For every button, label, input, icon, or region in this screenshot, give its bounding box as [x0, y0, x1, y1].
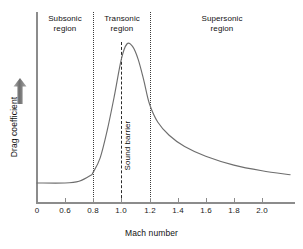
x-tick-1-4 [178, 198, 179, 203]
x-axis-title: Mach number [0, 228, 303, 238]
region-label-transonic-line1: Transonic [104, 14, 140, 23]
x-tick-1-6 [206, 198, 207, 203]
y-axis-title: Drag coefficient [9, 82, 19, 172]
x-tick-label-1-0: 1.0 [115, 206, 126, 215]
plot-area: 0 0.6 0.8 1.0 1.2 1.4 1.6 1.8 2.0 Subson… [0, 0, 303, 249]
region-label-subsonic-line2: region [48, 24, 82, 34]
x-tick-label-1-8: 1.8 [228, 206, 239, 215]
curve-path [37, 43, 290, 183]
region-label-supersonic-line1: Supersonic [201, 14, 242, 23]
x-tick-2-0 [262, 198, 263, 203]
x-tick-1-2 [150, 198, 151, 203]
x-tick-label-2-0: 2.0 [256, 206, 267, 215]
region-label-transonic: Transonic region [104, 14, 140, 34]
x-tick-label-1-2: 1.2 [144, 206, 155, 215]
sound-barrier-label: Sound barrier [123, 111, 132, 181]
x-tick-0-8 [93, 198, 94, 203]
x-tick-label-0: 0 [35, 206, 40, 215]
region-label-supersonic: Supersonic region [201, 14, 242, 34]
drag-coefficient-chart: 0 0.6 0.8 1.0 1.2 1.4 1.6 1.8 2.0 Subson… [0, 0, 303, 249]
x-tick-label-1-6: 1.6 [200, 206, 211, 215]
region-label-transonic-line2: region [104, 24, 140, 34]
region-label-subsonic: Subsonic region [48, 14, 82, 34]
region-label-supersonic-line2: region [201, 24, 242, 34]
x-tick-0 [37, 198, 38, 203]
x-tick-label-1-4: 1.4 [172, 206, 183, 215]
x-tick-1-0 [121, 198, 122, 203]
x-tick-0-6 [65, 198, 66, 203]
x-tick-1-8 [234, 198, 235, 203]
region-label-subsonic-line1: Subsonic [48, 14, 82, 23]
x-tick-label-0-8: 0.8 [87, 206, 98, 215]
x-tick-label-0-6: 0.6 [59, 206, 70, 215]
